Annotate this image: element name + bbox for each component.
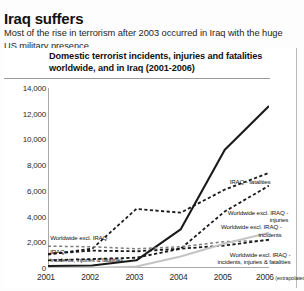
series-label: Worldwide excl. IRAQ (50, 234, 107, 241)
x-axis-tick-label: 2001 (37, 272, 55, 282)
chart-title: Domestic terrorist incidents, injuries a… (49, 51, 279, 74)
series-label: IRAQ -incidents, injuries & fatalities (50, 248, 123, 263)
chart-container: Domestic terrorist incidents, injuries a… (4, 48, 297, 288)
x-axis-tick-label: 2004 (170, 272, 188, 282)
extrapolated-note: (extrapolated) (274, 275, 304, 281)
y-axis-tick-label: 10,000 (8, 135, 46, 144)
y-axis-tick-label: 12,000 (8, 110, 46, 119)
page-title: Iraq suffers (4, 11, 83, 27)
y-axis-tick-label: 4,000 (8, 213, 46, 222)
y-axis-tick-label: 14,000 (8, 84, 46, 93)
series-label: Worldwide excl. IRAQ -injuries (228, 209, 289, 224)
y-axis-tick-labels: 02,0004,0006,0008,00010,00012,00014,000 (4, 88, 46, 272)
y-axis-tick-label: 6,000 (8, 187, 46, 196)
figure-right-border (296, 48, 297, 288)
x-axis-tick-labels: 200120022003200420052006 (extrapolated) (48, 270, 298, 286)
x-axis-tick-label: 2005 (214, 272, 232, 282)
title-divider (4, 78, 270, 79)
article-figure-page: Iraq suffers Most of the rise in terrori… (0, 0, 304, 291)
y-axis-tick-label: 2,000 (8, 238, 46, 247)
series-label: Worldwide excl. IRAQ -incidents (221, 223, 282, 238)
series-label: Worldwide excl. IRAQ -incidents, injurie… (217, 251, 290, 266)
series-label: IRAQ - fatalities (230, 178, 271, 185)
x-axis-tick-label: 2002 (81, 272, 99, 282)
x-axis-tick-label: 2006 (extrapolated) (256, 272, 304, 282)
x-axis-tick-label: 2003 (125, 272, 143, 282)
y-axis-tick-label: 8,000 (8, 161, 46, 170)
